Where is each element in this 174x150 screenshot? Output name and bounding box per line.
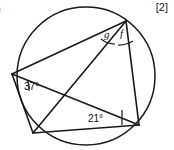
chord-bottomleft-right [33,125,139,133]
chord-top-right [126,21,139,125]
question-figure-page: ) [2] 37° 21° g f [0,0,174,150]
angle-label-f: f [120,28,123,39]
chord-top-bottomleft [33,21,126,133]
circle-outline [17,7,155,145]
angle-arc-f [118,41,133,45]
circle-geometry-diagram [0,0,174,150]
angle-label-37: 37° [24,82,39,92]
angle-label-g: g [104,29,110,40]
angle-label-21: 21° [88,114,103,124]
